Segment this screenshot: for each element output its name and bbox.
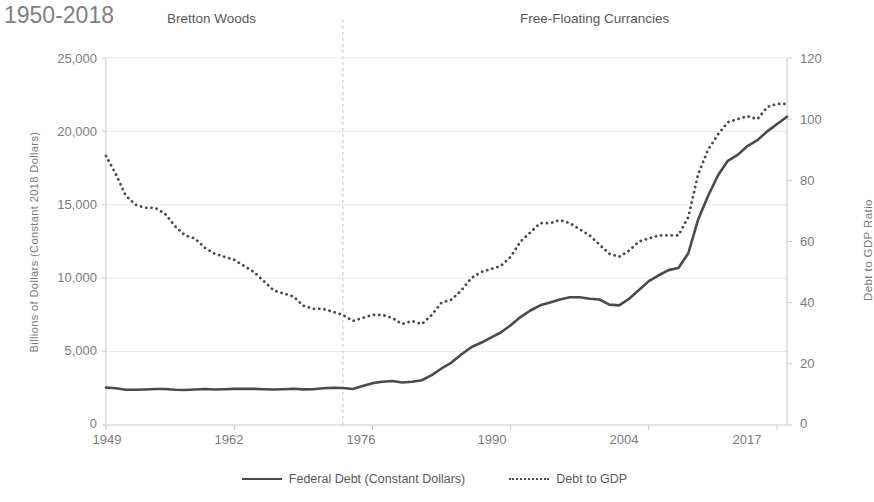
legend-label-federal-debt: Federal Debt (Constant Dollars) bbox=[289, 472, 465, 486]
chart-legend: Federal Debt (Constant Dollars) Debt to … bbox=[0, 472, 869, 486]
legend-item-federal-debt: Federal Debt (Constant Dollars) bbox=[242, 472, 465, 486]
legend-item-debt-to-gdp: Debt to GDP bbox=[509, 472, 627, 486]
solid-line-swatch-icon bbox=[242, 478, 282, 480]
legend-label-debt-to-gdp: Debt to GDP bbox=[556, 472, 627, 486]
dotted-line-swatch-icon bbox=[509, 478, 549, 480]
